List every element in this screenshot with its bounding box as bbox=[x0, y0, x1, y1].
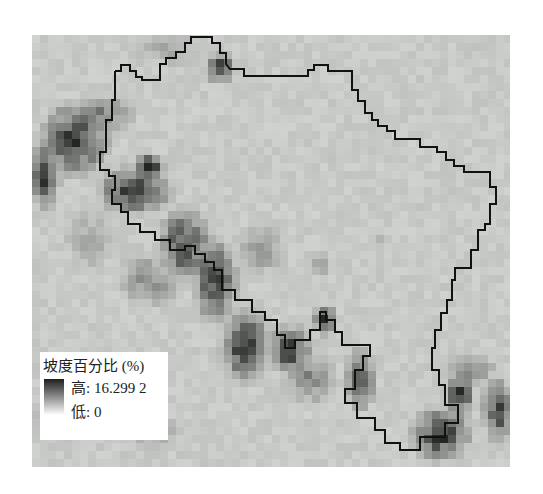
map-legend: 坡度百分比 (%) 高: 16.299 2 低: 0 bbox=[40, 352, 168, 440]
legend-low-label: 低: 0 bbox=[71, 400, 101, 421]
legend-title: 坡度百分比 (%) bbox=[43, 354, 144, 375]
legend-color-ramp bbox=[44, 379, 64, 415]
legend-high-label: 高: 16.299 2 bbox=[71, 376, 146, 397]
